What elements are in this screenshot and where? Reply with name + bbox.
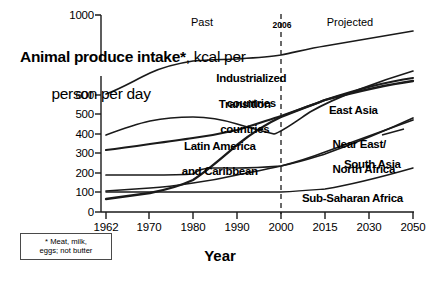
chart-title-line3: person per day <box>51 85 150 102</box>
series-label-industrialized-line1: Industrialized <box>216 72 286 84</box>
series-label-latin-america-and-caribbean: Latin America and Caribbean <box>155 128 273 190</box>
y-tick-label-1000: 1000 <box>48 9 94 21</box>
series-label-south-asia: South Asia <box>344 158 426 170</box>
x-tick-label-2030: 2030 <box>348 221 390 233</box>
annotation-projected: Projected <box>312 17 388 29</box>
chart-title: Animal produce intake*, kcal per person … <box>4 30 182 121</box>
x-axis-title: Year <box>175 248 265 264</box>
footnote-line1: * Meat, milk, <box>45 237 87 246</box>
footnote-line2: eggs; not butter <box>40 246 93 255</box>
annotation-past: Past <box>172 17 232 29</box>
y-tick-label-300: 300 <box>48 147 94 159</box>
y-tick-label-200: 200 <box>48 167 94 179</box>
y-tick-label-400: 400 <box>48 128 94 140</box>
series-label-sub-saharan-africa: Sub-Saharan Africa <box>302 192 426 204</box>
series-label-latin-line1: Latin America <box>184 140 256 152</box>
chart-root: 1000 600 500 400 300 200 100 0 1962 1970… <box>0 0 428 281</box>
footnote-box: * Meat, milk, eggs; not butter <box>20 233 112 260</box>
x-tick-label-2015: 2015 <box>304 221 346 233</box>
annotation-2006-label: 2006 <box>262 21 302 30</box>
x-tick-label-2050: 2050 <box>392 221 428 233</box>
x-tick-label-1962: 1962 <box>85 221 127 233</box>
x-tick-label-1980: 1980 <box>172 221 214 233</box>
y-tick-label-100: 100 <box>48 186 94 198</box>
x-tick-label-2000: 2000 <box>260 221 302 233</box>
x-tick-label-1990: 1990 <box>216 221 258 233</box>
chart-title-bold: Animal produce intake* <box>20 48 186 65</box>
y-tick-label-0: 0 <box>48 206 94 218</box>
series-label-latin-line2: and Caribbean <box>182 165 258 177</box>
series-label-transition-line1: Transition <box>219 98 271 110</box>
series-label-neareast-line1: Near East/ <box>333 138 386 150</box>
x-axis-ticks <box>106 212 413 219</box>
series-label-east-asia: East Asia <box>329 104 419 116</box>
x-tick-label-1970: 1970 <box>128 221 170 233</box>
